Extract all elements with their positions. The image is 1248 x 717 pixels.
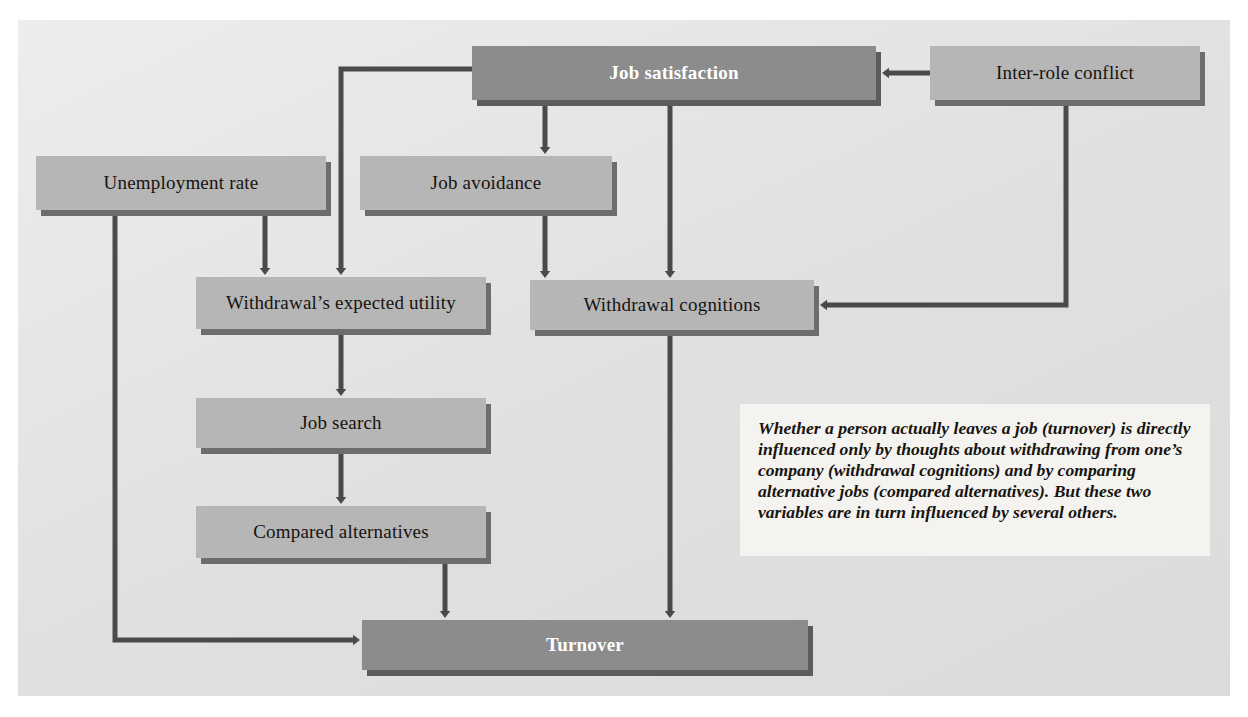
node-label: Job search bbox=[290, 413, 392, 434]
node-label: Compared alternatives bbox=[243, 522, 439, 543]
node-label: Job satisfaction bbox=[599, 63, 748, 84]
connector-layer bbox=[0, 0, 1248, 717]
node-unemployment-rate: Unemployment rate bbox=[36, 156, 326, 210]
node-inter-role-conflict: Inter-role conflict bbox=[930, 46, 1200, 100]
caption-box: Whether a person actually leaves a job (… bbox=[740, 404, 1210, 556]
node-withdrawals-expected-utility: Withdrawal’s expected utility bbox=[196, 277, 486, 329]
node-compared-alternatives: Compared alternatives bbox=[196, 506, 486, 558]
node-label: Withdrawal’s expected utility bbox=[216, 293, 466, 314]
node-label: Turnover bbox=[536, 635, 634, 656]
node-job-avoidance: Job avoidance bbox=[360, 156, 612, 210]
connector-inter-role-conflict-to-withdrawal-cognitions bbox=[824, 100, 1066, 305]
node-label: Unemployment rate bbox=[94, 173, 269, 194]
node-job-search: Job search bbox=[196, 398, 486, 448]
node-job-satisfaction: Job satisfaction bbox=[472, 46, 876, 100]
node-withdrawal-cognitions: Withdrawal cognitions bbox=[530, 280, 814, 330]
node-label: Job avoidance bbox=[421, 173, 552, 194]
caption-text: Whether a person actually leaves a job (… bbox=[758, 418, 1190, 522]
figure-canvas: Job satisfactionInter-role conflictUnemp… bbox=[0, 0, 1248, 717]
node-label: Withdrawal cognitions bbox=[573, 295, 770, 316]
node-label: Inter-role conflict bbox=[986, 63, 1144, 84]
node-turnover: Turnover bbox=[362, 620, 808, 670]
